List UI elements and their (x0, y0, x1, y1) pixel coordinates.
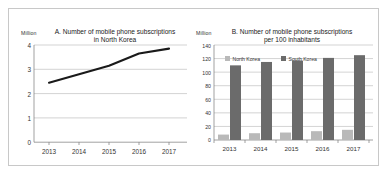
chart-panel-a: Million A. Number of mobile phone subscr… (13, 9, 193, 165)
panel-b-xtick-2013: 2013 (217, 145, 243, 152)
bar-sk-2016 (323, 58, 334, 140)
panel-a-xtick-2015: 2015 (96, 148, 122, 155)
bar-nk-2013 (218, 135, 229, 140)
chart-panel-b: Million B. Number of mobile phone subscr… (195, 9, 378, 165)
bar-sk-2013 (230, 65, 241, 140)
legend-label-north-korea: North Korea (233, 56, 260, 62)
bar-sk-2015 (292, 61, 303, 140)
panel-b-xtick-2014: 2014 (248, 145, 274, 152)
panel-a-plot (13, 9, 193, 167)
panel-b-plot (195, 9, 378, 167)
bar-nk-2014 (249, 133, 260, 140)
bar-nk-2017 (342, 130, 353, 140)
bar-nk-2015 (280, 133, 291, 140)
panel-a-xtick-2013: 2013 (36, 148, 62, 155)
legend-swatch-north-korea (225, 56, 230, 61)
figure-frame: Million A. Number of mobile phone subscr… (8, 8, 379, 166)
bar-sk-2014 (261, 62, 272, 140)
panel-a-data-line (49, 49, 169, 83)
legend-item-north-korea: North Korea (225, 56, 260, 62)
bar-sk-2017 (354, 55, 365, 140)
panel-b-xtick-2015: 2015 (279, 145, 305, 152)
legend-item-south-korea: South Korea (281, 56, 317, 62)
legend-swatch-south-korea (281, 56, 286, 61)
panel-a-xtick-2016: 2016 (126, 148, 152, 155)
panel-a-xtick-2017: 2017 (156, 148, 182, 155)
figure-canvas: Million A. Number of mobile phone subscr… (0, 0, 389, 181)
panel-b-xtick-2016: 2016 (310, 145, 336, 152)
panel-a-xtick-2014: 2014 (66, 148, 92, 155)
legend-label-south-korea: South Korea (289, 56, 317, 62)
bar-nk-2016 (311, 131, 322, 140)
panel-b-xtick-2017: 2017 (341, 145, 367, 152)
